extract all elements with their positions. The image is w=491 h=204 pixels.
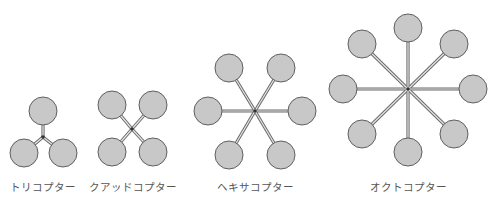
label-quadcopter: クアッドコプター	[89, 179, 177, 194]
rotor	[267, 141, 295, 169]
config-quadcopter	[98, 91, 167, 166]
rotor	[10, 139, 38, 167]
hub	[130, 127, 134, 131]
rotor	[348, 120, 376, 148]
rotor	[440, 120, 468, 148]
rotor	[215, 141, 243, 169]
rotor	[215, 54, 243, 82]
label-octocopter: オクトコプター	[370, 179, 447, 194]
rotor	[139, 91, 167, 119]
config-hexacopter	[194, 54, 316, 169]
config-tricopter	[10, 97, 77, 167]
rotor	[288, 97, 316, 125]
multirotor-configurations-diagram	[0, 0, 491, 204]
rotor	[139, 138, 167, 166]
hub	[253, 109, 257, 113]
rotor	[29, 97, 57, 125]
rotor	[194, 97, 222, 125]
rotor	[440, 30, 468, 58]
rotor	[49, 139, 77, 167]
rotor	[329, 75, 357, 103]
hub	[41, 135, 45, 139]
config-octocopter	[329, 14, 487, 166]
rotor	[459, 75, 487, 103]
rotor	[394, 14, 422, 42]
rotor	[98, 91, 126, 119]
rotor	[394, 138, 422, 166]
rotor	[98, 138, 126, 166]
rotor	[267, 54, 295, 82]
label-tricopter: トリコプター	[10, 179, 76, 194]
label-hexacopter: ヘキサコプター	[217, 179, 294, 194]
rotor	[348, 30, 376, 58]
hub	[406, 87, 410, 91]
